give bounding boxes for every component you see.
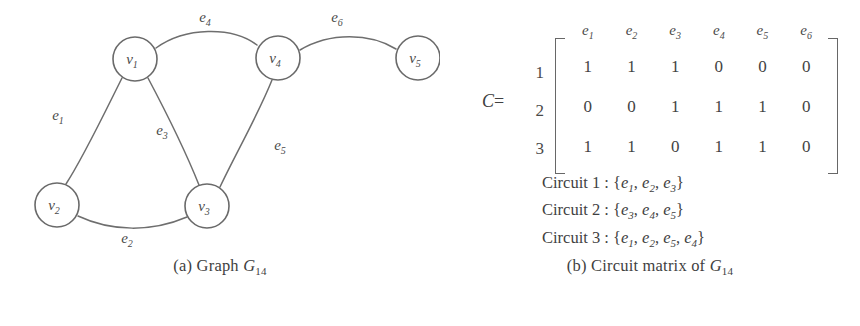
matrix-body: 111000001110110110 xyxy=(566,47,828,167)
circuit-member: e5 xyxy=(663,228,676,247)
matrix-cell-r3c5: 1 xyxy=(741,127,785,167)
matrix-cell-r3c2: 1 xyxy=(610,127,654,167)
caption-graph-panel: (a) Graph G14 xyxy=(0,256,440,277)
matrix-row: 111000 xyxy=(566,47,828,87)
matrix-cell-r1c4: 0 xyxy=(697,47,741,87)
graph-panel: e1e2e3e4e5e6v1v2v3v4v5 (a) Graph G14 xyxy=(0,0,440,326)
circuit-member: e1 xyxy=(621,228,634,247)
circuit-entry-1: Circuit 1 : {e1, e2, e3} xyxy=(542,172,705,199)
circuit-name: Circuit 3 : { xyxy=(542,228,621,247)
circuit-definition-list: Circuit 1 : {e1, e2, e3}Circuit 2 : {e3,… xyxy=(542,172,705,254)
caption-symbol: G xyxy=(243,256,255,275)
circuit-member: e5 xyxy=(663,200,676,219)
matrix-cell-r1c3: 1 xyxy=(653,47,697,87)
matrix-left-bracket xyxy=(555,38,565,174)
edge-label-e3: e3 xyxy=(156,122,168,141)
edge-label-e1: e1 xyxy=(52,107,64,126)
matrix-cell-r2c5: 1 xyxy=(741,87,785,127)
graph-vertex-v5: v5 xyxy=(396,36,440,80)
edge-label-e2: e2 xyxy=(121,230,133,249)
circuit-member: e2 xyxy=(642,173,655,192)
matrix-column-header-4: e4 xyxy=(697,22,741,47)
edge-label-e6: e6 xyxy=(331,9,343,28)
matrix-cell-r2c2: 0 xyxy=(610,87,654,127)
circuit-member: e1 xyxy=(621,173,634,192)
matrix-right-bracket xyxy=(828,38,838,174)
circuit-member: e4 xyxy=(684,228,697,247)
matrix-cell-r3c3: 0 xyxy=(653,127,697,167)
matrix-row-label-1: 1 xyxy=(522,54,544,92)
matrix-cell-r1c1: 1 xyxy=(566,47,610,87)
matrix-column-header-5: e5 xyxy=(741,22,785,47)
circuit-member: e3 xyxy=(663,173,676,192)
matrix-cell-r2c6: 0 xyxy=(784,87,828,127)
caption-matrix-panel: (b) Circuit matrix of G14 xyxy=(440,256,860,277)
matrix-column-header-6: e6 xyxy=(784,22,828,47)
matrix-cell-r1c5: 0 xyxy=(741,47,785,87)
matrix-cell-r1c2: 1 xyxy=(610,47,654,87)
circuit-entry-3: Circuit 3 : {e1, e2, e5, e4} xyxy=(542,227,705,254)
matrix-row-labels: 123 xyxy=(522,54,544,168)
circuit-close-brace: } xyxy=(676,173,684,192)
graph-vertex-v4: v4 xyxy=(256,36,300,80)
circuit-member: e4 xyxy=(642,200,655,219)
matrix-table: e1e2e3e4e5e6 111000001110110110 xyxy=(566,22,828,167)
matrix-column-header-1: e1 xyxy=(566,22,610,47)
matrix-column-header-3: e3 xyxy=(653,22,697,47)
circuit-entry-2: Circuit 2 : {e3, e4, e5} xyxy=(542,199,705,226)
matrix-cell-r3c4: 1 xyxy=(697,127,741,167)
graph-vertex-v1: v1 xyxy=(113,37,157,81)
matrix-panel: C= 123 e1e2e3e4e5e6 111000001110110110 C… xyxy=(440,0,860,326)
matrix-row: 110110 xyxy=(566,127,828,167)
graph-vertex-v2: v2 xyxy=(35,183,79,227)
circuit-close-brace: } xyxy=(697,228,705,247)
graph-drawing: e1e2e3e4e5e6v1v2v3v4v5 xyxy=(0,0,440,250)
matrix-equals-sign: = xyxy=(494,91,504,111)
circuit-matrix: C= 123 e1e2e3e4e5e6 111000001110110110 xyxy=(460,16,860,176)
matrix-name: C xyxy=(482,91,494,111)
matrix-row-label-2: 2 xyxy=(522,92,544,130)
matrix-row-label-3: 3 xyxy=(522,130,544,168)
circuit-member: e2 xyxy=(642,228,655,247)
matrix-header-row: e1e2e3e4e5e6 xyxy=(566,22,828,47)
matrix-name-label: C= xyxy=(482,91,504,112)
graph-vertex-v3: v3 xyxy=(185,184,229,228)
graph-edge-e2 xyxy=(78,216,187,228)
figure-container: e1e2e3e4e5e6v1v2v3v4v5 (a) Graph G14 C= … xyxy=(0,0,860,326)
matrix-grid: e1e2e3e4e5e6 111000001110110110 xyxy=(566,22,828,167)
circuit-name: Circuit 1 : { xyxy=(542,173,621,192)
edge-label-e5: e5 xyxy=(274,137,286,156)
matrix-cell-r3c1: 1 xyxy=(566,127,610,167)
circuit-member: e3 xyxy=(621,200,634,219)
graph-edge-e1 xyxy=(66,78,122,184)
caption-symbol: G xyxy=(710,256,722,275)
matrix-cell-r1c6: 0 xyxy=(784,47,828,87)
matrix-cell-r2c3: 1 xyxy=(653,87,697,127)
graph-edge-e6 xyxy=(300,37,396,50)
graph-edge-e5 xyxy=(220,80,272,187)
edge-label-e4: e4 xyxy=(199,9,211,28)
matrix-column-header-2: e2 xyxy=(610,22,654,47)
matrix-cell-r3c6: 0 xyxy=(784,127,828,167)
circuit-close-brace: } xyxy=(676,200,684,219)
matrix-cell-r2c4: 1 xyxy=(697,87,741,127)
matrix-row: 001110 xyxy=(566,87,828,127)
graph-edge-e4 xyxy=(156,31,257,48)
matrix-cell-r2c1: 0 xyxy=(566,87,610,127)
circuit-name: Circuit 2 : { xyxy=(542,200,621,219)
